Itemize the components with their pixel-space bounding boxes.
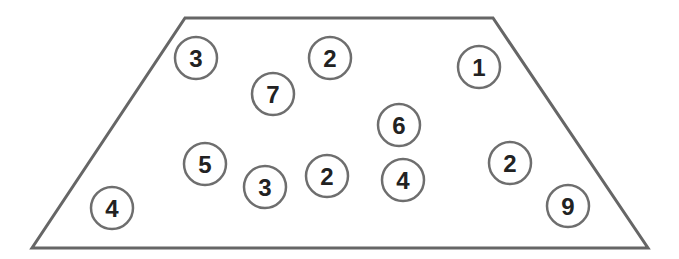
circle-number: 2 [323, 45, 336, 72]
number-circle: 5 [184, 143, 226, 185]
number-circle: 4 [382, 159, 424, 201]
number-circle: 9 [547, 185, 589, 227]
circle-number: 2 [320, 163, 333, 190]
trapezoid-number-diagram: 321765324249 [0, 0, 679, 259]
number-circles: 321765324249 [91, 37, 589, 229]
number-circle: 3 [244, 166, 286, 208]
circle-number: 1 [472, 54, 485, 81]
number-circle: 2 [489, 142, 531, 184]
number-circle: 4 [91, 187, 133, 229]
circle-number: 3 [258, 174, 271, 201]
circle-number: 6 [392, 112, 405, 139]
number-circle: 6 [378, 104, 420, 146]
circle-number: 4 [105, 195, 119, 222]
number-circle: 2 [309, 37, 351, 79]
circle-number: 2 [503, 150, 516, 177]
circle-number: 4 [396, 167, 410, 194]
circle-number: 3 [189, 45, 202, 72]
number-circle: 1 [458, 46, 500, 88]
number-circle: 2 [306, 155, 348, 197]
number-circle: 7 [252, 73, 294, 115]
number-circle: 3 [175, 37, 217, 79]
circle-number: 9 [561, 193, 574, 220]
circle-number: 7 [266, 81, 279, 108]
circle-number: 5 [198, 151, 211, 178]
